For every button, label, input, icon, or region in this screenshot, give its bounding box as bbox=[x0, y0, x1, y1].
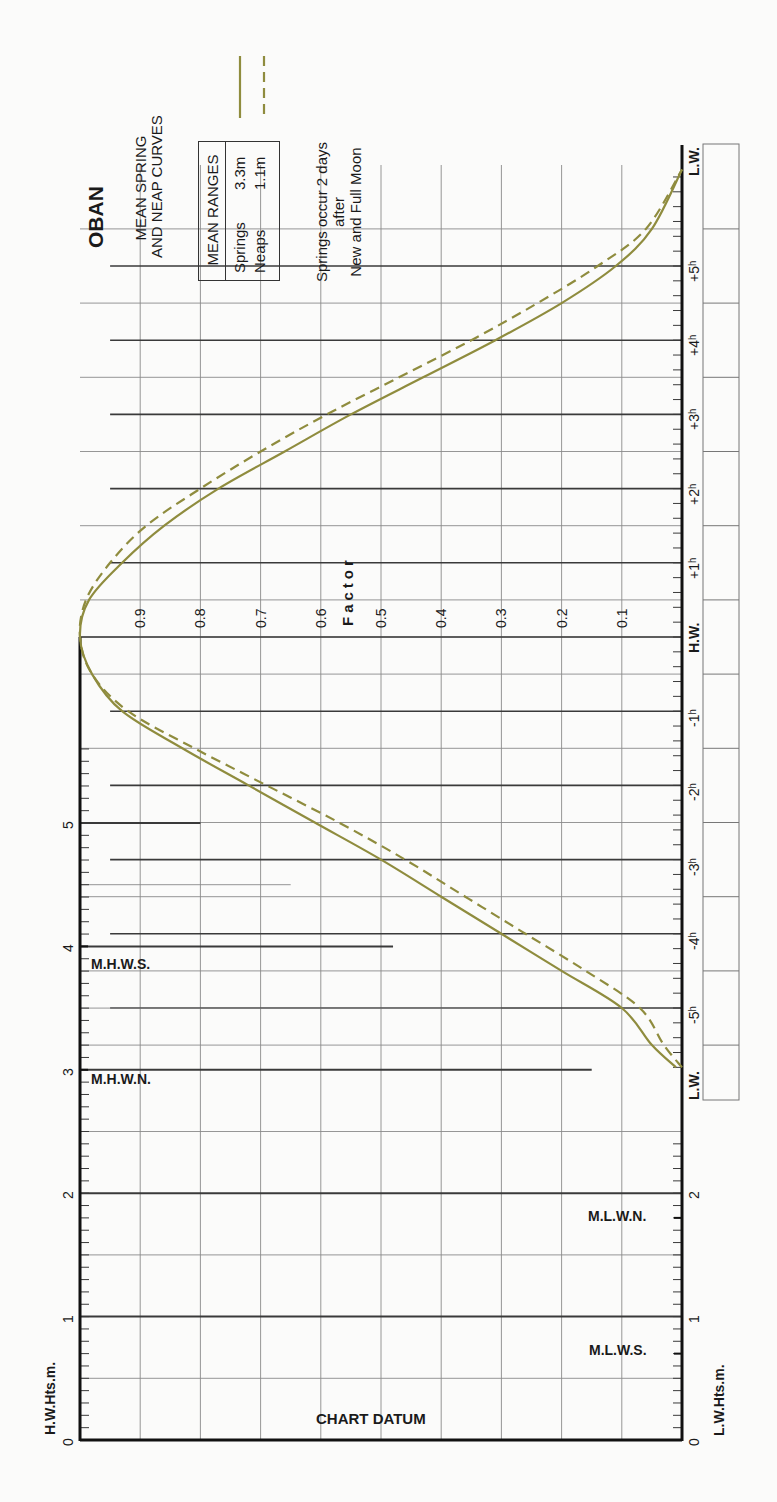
mhws-label: M.H.W.S. bbox=[91, 956, 150, 972]
time-tick-label: L.W. bbox=[686, 147, 702, 176]
legend-swatches bbox=[240, 56, 264, 118]
hw-heights-axis-label: H.W.Hts.m. bbox=[42, 1362, 58, 1435]
factor-tick-label: 0.9 bbox=[132, 609, 148, 628]
hw-height-tick-label: 0 bbox=[60, 1438, 76, 1446]
tidal-curve-diagram: OBAN MEAN SPRING AND NEAP CURVES MEAN RA… bbox=[0, 0, 777, 1502]
lw-height-tick-label: 2 bbox=[686, 1191, 702, 1199]
factor-tick-label: 0.6 bbox=[313, 609, 329, 628]
subtitle-line-2: AND NEAP CURVES bbox=[148, 118, 165, 258]
factor-tick-label: 0.4 bbox=[433, 609, 449, 628]
factor-tick-label: 0.7 bbox=[253, 609, 269, 628]
time-tick-label: L.W. bbox=[686, 1071, 702, 1100]
grid-layer bbox=[80, 144, 739, 1441]
factor-tick-label: 0.5 bbox=[373, 609, 389, 628]
chart-datum-label: CHART DATUM bbox=[316, 1410, 426, 1427]
hw-height-tick-label: 5 bbox=[60, 821, 76, 829]
lw-height-tick-label: 1 bbox=[686, 1315, 702, 1323]
factor-tick-label: 0.3 bbox=[493, 609, 509, 628]
time-tick-label: -3ʰ bbox=[686, 858, 702, 876]
hw-height-tick-label: 1 bbox=[60, 1315, 76, 1323]
time-slot-column bbox=[703, 144, 739, 1100]
factor-tick-label: 0.8 bbox=[192, 609, 208, 628]
note-line-2: after bbox=[330, 122, 347, 302]
tidal-chart bbox=[0, 0, 777, 1502]
time-tick-label: -1ʰ bbox=[686, 709, 702, 727]
neaps-range-value: 1.1m bbox=[251, 157, 268, 190]
mlwn-label: M.L.W.N. bbox=[588, 1208, 646, 1224]
hw-height-tick-label: 2 bbox=[60, 1191, 76, 1199]
mhwn-label: M.H.W.N. bbox=[91, 1071, 151, 1087]
factor-tick-label: 0.2 bbox=[554, 609, 570, 628]
lw-heights-axis-label: L.W.Hts.m. bbox=[711, 1364, 727, 1436]
factor-axis-label: Factor bbox=[339, 556, 356, 626]
time-tick-label: -2ʰ bbox=[686, 784, 702, 802]
factor-tick-label: 0.1 bbox=[614, 609, 630, 628]
title: OBAN bbox=[84, 186, 108, 248]
time-tick-label: +2ʰ bbox=[686, 483, 702, 504]
time-tick-label: -4ʰ bbox=[686, 932, 702, 950]
springs-range-value: 3.3m bbox=[231, 157, 248, 190]
hw-height-tick-label: 3 bbox=[60, 1068, 76, 1076]
time-tick-label: -5ʰ bbox=[686, 1006, 702, 1024]
lw-height-tick-label: 0 bbox=[686, 1438, 702, 1446]
time-tick-label: H.W. bbox=[686, 623, 702, 653]
subtitle-line-1: MEAN SPRING bbox=[132, 118, 149, 258]
mean-ranges-divider bbox=[225, 141, 226, 281]
time-tick-label: +4ʰ bbox=[686, 335, 702, 356]
note-line-3: New and Full Moon bbox=[347, 122, 364, 302]
time-tick-label: +1ʰ bbox=[686, 557, 702, 578]
time-tick-label: +3ʰ bbox=[686, 409, 702, 430]
mlws-label: M.L.W.S. bbox=[589, 1342, 647, 1358]
hw-height-tick-label: 4 bbox=[60, 945, 76, 953]
mean-ranges-header: MEAN RANGES bbox=[204, 147, 221, 273]
time-tick-label: +5ʰ bbox=[686, 261, 702, 282]
springs-range-label: Springs bbox=[231, 222, 248, 273]
neaps-range-label: Neaps bbox=[251, 230, 268, 273]
note-line-1: Springs occur 2 days bbox=[313, 122, 330, 302]
